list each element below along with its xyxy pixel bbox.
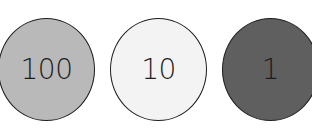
coin-value: 1 [262,53,279,86]
coin-1: 1 [222,18,312,121]
coin-100: 100 [0,18,95,121]
coin-10: 10 [110,18,207,121]
coin-value: 10 [141,53,176,86]
coin-value: 100 [21,53,73,86]
